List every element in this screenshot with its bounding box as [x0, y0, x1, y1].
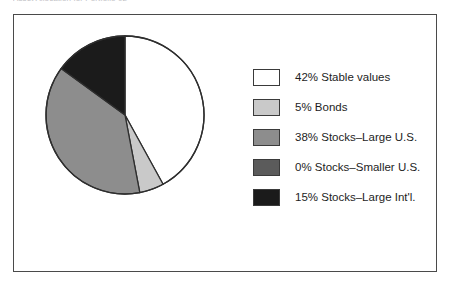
- legend-label-stocks-large-intl: 15% Stocks–Large Int'l.: [295, 191, 415, 204]
- legend-item-stocks-large-us: 38% Stocks–Large U.S.: [253, 122, 438, 152]
- pie-chart: [40, 30, 210, 200]
- chart-title: Asset Allocation for Portfolio 02: [13, 0, 127, 3]
- legend-label-stable-values: 42% Stable values: [295, 71, 390, 84]
- legend-item-stable-values: 42% Stable values: [253, 62, 438, 92]
- legend-swatch-bonds: [253, 99, 280, 116]
- legend-item-stocks-smaller-us: 0% Stocks–Smaller U.S.: [253, 152, 438, 182]
- legend-label-stocks-large-us: 38% Stocks–Large U.S.: [295, 131, 417, 144]
- chart-frame: 42% Stable values 5% Bonds 38% Stocks–La…: [13, 14, 437, 272]
- legend-swatch-stable-values: [253, 69, 280, 86]
- pie-chart-svg: [40, 30, 210, 200]
- legend-label-bonds: 5% Bonds: [295, 101, 347, 114]
- legend-item-bonds: 5% Bonds: [253, 92, 438, 122]
- legend-swatch-stocks-large-intl: [253, 189, 280, 206]
- legend-swatch-stocks-smaller-us: [253, 159, 280, 176]
- legend-label-stocks-smaller-us: 0% Stocks–Smaller U.S.: [295, 161, 420, 174]
- chart-legend: 42% Stable values 5% Bonds 38% Stocks–La…: [253, 62, 438, 212]
- legend-item-stocks-large-intl: 15% Stocks–Large Int'l.: [253, 182, 438, 212]
- pie-slice-group: [46, 36, 204, 194]
- legend-swatch-stocks-large-us: [253, 129, 280, 146]
